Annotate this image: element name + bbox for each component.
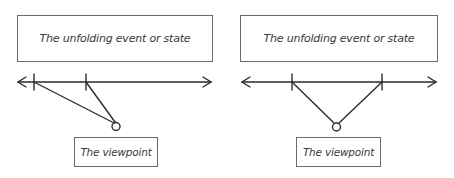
viewpoint-circle-icon	[112, 123, 120, 131]
event-label: The unfolding event or state	[264, 32, 415, 45]
viewpoint-box-right: The viewpoint	[296, 137, 381, 167]
event-label: The unfolding event or state	[40, 32, 191, 45]
viewpoint-circle-icon	[333, 123, 341, 131]
left-timeline	[18, 74, 211, 90]
left-sightlines	[34, 82, 115, 123]
event-box-right: The unfolding event or state	[240, 15, 438, 62]
right-timeline	[242, 74, 436, 90]
viewpoint-label: The viewpoint	[80, 146, 151, 158]
right-sightlines	[292, 82, 382, 123]
viewpoint-box-left: The viewpoint	[74, 137, 158, 167]
event-box-left: The unfolding event or state	[17, 15, 213, 62]
viewpoint-label: The viewpoint	[303, 146, 374, 158]
